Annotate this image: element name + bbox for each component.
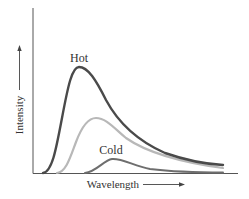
blackbody-chart: Hot Cold Intensity Wavelength (0, 0, 249, 199)
curve-cold (85, 159, 223, 173)
curve-medium (57, 118, 223, 173)
x-axis-label: Wavelength (87, 178, 140, 190)
label-hot: Hot (70, 51, 89, 65)
arrow-up-icon (17, 45, 21, 51)
label-cold: Cold (99, 143, 122, 157)
arrow-right-icon (179, 182, 185, 186)
y-axis-label: Intensity (13, 95, 25, 134)
